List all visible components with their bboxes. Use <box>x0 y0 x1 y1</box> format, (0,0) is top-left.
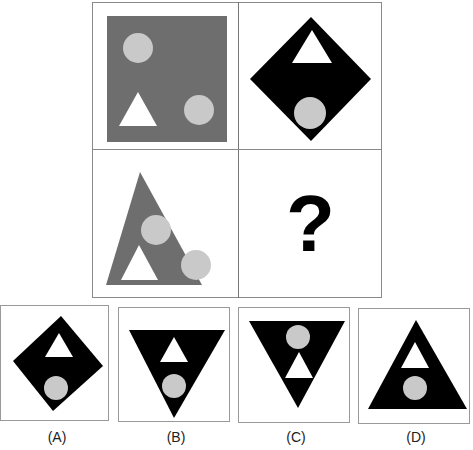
circle-shape <box>294 97 326 129</box>
gray-square-figure <box>92 2 238 149</box>
circle-shape <box>184 95 214 125</box>
question-mark: ? <box>238 150 383 298</box>
circle-shape <box>286 325 310 349</box>
option-c-figure <box>239 308 351 424</box>
option-c[interactable] <box>238 307 350 423</box>
option-b-label[interactable]: (B) <box>146 429 206 445</box>
black-diamond-figure <box>238 2 383 149</box>
circle-shape <box>44 376 68 400</box>
circle-shape <box>162 374 186 398</box>
circle-shape <box>123 33 153 63</box>
circle-shape <box>181 250 211 280</box>
option-a-label[interactable]: (A) <box>27 429 87 445</box>
cell-bottom-left <box>92 150 238 298</box>
option-d-label[interactable]: (D) <box>386 429 446 445</box>
gray-triangle-figure <box>92 150 238 298</box>
cell-top-right <box>238 2 383 149</box>
option-c-label[interactable]: (C) <box>266 429 326 445</box>
option-d[interactable] <box>358 308 470 424</box>
option-b[interactable] <box>118 307 230 422</box>
option-d-figure <box>359 309 471 425</box>
cell-top-left <box>92 2 238 149</box>
option-a-figure <box>1 306 110 422</box>
option-a[interactable] <box>0 305 109 421</box>
option-b-figure <box>119 308 231 423</box>
circle-shape <box>403 376 427 400</box>
circle-shape <box>141 215 171 245</box>
